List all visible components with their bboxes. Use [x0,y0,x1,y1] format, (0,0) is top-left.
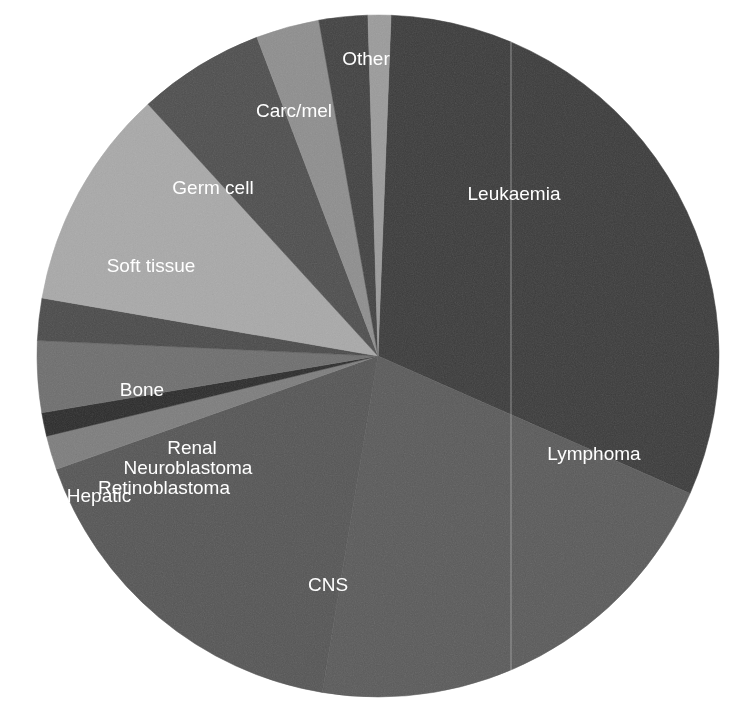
pie-chart-canvas: LeukaemiaLymphomaCNSRetinoblastomaHepati… [0,0,755,715]
slice-label-lymphoma: Lymphoma [547,443,641,464]
slice-label-carc-mel: Carc/mel [256,100,332,121]
slice-label-soft-tissue: Soft tissue [107,255,196,276]
slice-label-renal: Renal [167,437,217,458]
slice-label-cns: CNS [308,574,348,595]
slice-label-hepatic: Hepatic [67,485,131,506]
slice-label-bone: Bone [120,379,164,400]
slice-label-other: Other [342,48,390,69]
slice-label-neuroblastoma: Neuroblastoma [124,457,253,478]
slice-label-leukaemia: Leukaemia [468,183,561,204]
slice-label-germ-cell: Germ cell [172,177,253,198]
pie-chart-figure: LeukaemiaLymphomaCNSRetinoblastomaHepati… [0,0,755,715]
pie-slices [37,15,719,697]
